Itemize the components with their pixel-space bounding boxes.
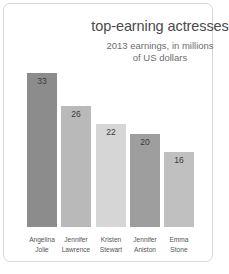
bar-value-label: 22	[96, 127, 126, 137]
bar: 22	[96, 124, 126, 227]
category-label: JenniferLawrence	[59, 235, 93, 254]
bar: 33	[27, 73, 57, 227]
bar-value-label: 26	[61, 109, 91, 119]
bar-value-label: 16	[164, 155, 194, 165]
bar: 20	[130, 134, 160, 227]
category-label: JenniferAniston	[128, 235, 162, 254]
category-label-line: Jolie	[25, 245, 59, 255]
category-label-line: Stewart	[94, 245, 128, 255]
category-label-line: Angelina	[25, 235, 59, 245]
category-label-line: Jennifer	[59, 235, 93, 245]
category-label: EmmaStone	[162, 235, 196, 254]
bar: 16	[164, 152, 194, 227]
category-label-line: Lawrence	[59, 245, 93, 255]
bar-value-label: 33	[27, 76, 57, 86]
category-label: KristenStewart	[94, 235, 128, 254]
bar: 26	[61, 106, 91, 227]
bar-value-label: 20	[130, 137, 160, 147]
category-label-line: Jennifer	[128, 235, 162, 245]
category-label-line: Stone	[162, 245, 196, 255]
bar-chart-plot: 33AngelinaJolie26JenniferLawrence22Krist…	[0, 0, 219, 274]
category-label-line: Aniston	[128, 245, 162, 255]
category-label-line: Kristen	[94, 235, 128, 245]
category-label-line: Emma	[162, 235, 196, 245]
category-label: AngelinaJolie	[25, 235, 59, 254]
